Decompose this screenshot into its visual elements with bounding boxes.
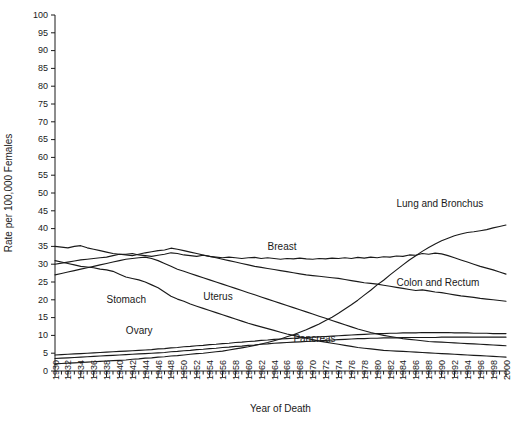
x-tick-label: 2000	[502, 360, 512, 380]
x-tick-label: 1984	[398, 360, 408, 380]
series-label-ovary: Ovary	[126, 325, 153, 336]
x-tick-label: 1982	[386, 360, 396, 380]
y-tick-label: 100	[33, 10, 48, 20]
x-tick-label: 1998	[489, 360, 499, 380]
y-tick-label: 20	[38, 295, 48, 305]
x-tick-label: 1944	[141, 360, 151, 380]
x-tick-label: 1948	[166, 360, 176, 380]
series-label-stomach: Stomach	[107, 294, 146, 305]
x-tick-label: 1954	[205, 360, 215, 380]
x-tick-label: 1952	[192, 360, 202, 380]
y-tick-label: 65	[38, 134, 48, 144]
x-tick-label: 1956	[218, 360, 228, 380]
y-tick-label: 30	[38, 259, 48, 269]
x-tick-label: 1978	[360, 360, 370, 380]
y-tick-label: 90	[38, 45, 48, 55]
x-tick-label: 1938	[102, 360, 112, 380]
y-tick-label: 10	[38, 330, 48, 340]
y-tick-label: 15	[38, 312, 48, 322]
series-line-colon-and-rectum	[55, 248, 506, 301]
x-tick-label: 1960	[244, 360, 254, 380]
cancer-mortality-chart: 0510152025303540455055606570758085909510…	[0, 0, 522, 429]
x-tick-label: 1940	[115, 360, 125, 380]
x-tick-label: 1986	[411, 360, 421, 380]
chart-canvas: 0510152025303540455055606570758085909510…	[0, 0, 522, 429]
series-line-ovary	[55, 333, 506, 355]
series-label-pancreas: Pancreas	[293, 333, 335, 344]
x-tick-label: 1980	[373, 360, 383, 380]
x-tick-label: 1972	[321, 360, 331, 380]
x-tick-label: 1968	[295, 360, 305, 380]
y-tick-label: 55	[38, 170, 48, 180]
x-tick-label: 1964	[270, 360, 280, 380]
y-tick-label: 95	[38, 28, 48, 38]
y-tick-label: 70	[38, 117, 48, 127]
y-tick-label: 25	[38, 277, 48, 287]
series-label-uterus: Uterus	[203, 291, 232, 302]
x-tick-label: 1988	[424, 360, 434, 380]
x-tick-label: 1994	[463, 360, 473, 380]
y-tick-label: 0	[43, 366, 48, 376]
x-tick-label: 1936	[89, 360, 99, 380]
x-tick-label: 1958	[231, 360, 241, 380]
x-tick-label: 1970	[308, 360, 318, 380]
y-tick-label: 80	[38, 81, 48, 91]
series-labels: Lung and BronchusBreastColon and RectumS…	[107, 198, 484, 344]
x-tick-label: 1930	[51, 360, 61, 380]
y-tick-label: 35	[38, 241, 48, 251]
y-tick-label: 45	[38, 206, 48, 216]
x-tick-label: 1962	[257, 360, 267, 380]
y-tick-label: 50	[38, 188, 48, 198]
x-tick-label: 1996	[476, 360, 486, 380]
series-label-breast: Breast	[268, 241, 297, 252]
y-tick-label: 75	[38, 99, 48, 109]
series-label-lung-and-bronchus: Lung and Bronchus	[396, 198, 483, 209]
x-tick-label: 1990	[437, 360, 447, 380]
x-tick-label: 1946	[154, 360, 164, 380]
x-tick-label: 1992	[450, 360, 460, 380]
x-tick-label: 1950	[179, 360, 189, 380]
series-label-colon-and-rectum: Colon and Rectum	[396, 277, 479, 288]
y-axis: 0510152025303540455055606570758085909510…	[33, 10, 55, 376]
y-tick-label: 60	[38, 152, 48, 162]
series-line-pancreas	[55, 337, 506, 358]
x-tick-label: 1976	[347, 360, 357, 380]
y-tick-label: 85	[38, 63, 48, 73]
x-tick-label: 1966	[282, 360, 292, 380]
x-axis-title: Year of Death	[250, 403, 311, 414]
y-tick-label: 40	[38, 223, 48, 233]
x-tick-label: 1942	[128, 360, 138, 380]
y-axis-title: Rate per 100,000 Females	[3, 134, 14, 252]
y-tick-label: 5	[43, 348, 48, 358]
x-tick-label: 1974	[334, 360, 344, 380]
x-axis: 1930193219341936193819401942194419461948…	[51, 360, 512, 380]
